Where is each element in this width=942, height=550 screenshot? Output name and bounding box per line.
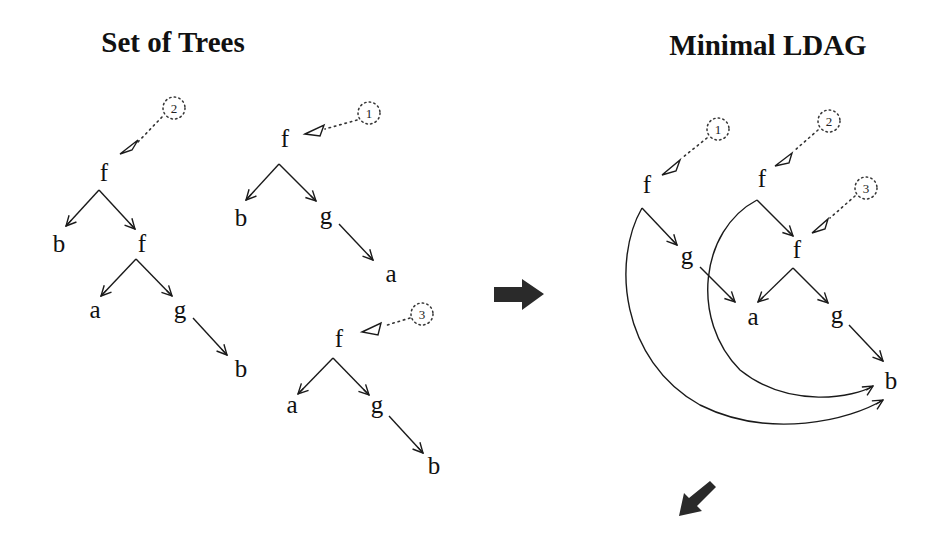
tree-node: g — [371, 391, 384, 418]
ldag-node: f — [758, 165, 767, 192]
open-arrowhead-icon — [305, 125, 324, 136]
ldag-node: f — [793, 236, 802, 263]
open-arrowhead-icon — [362, 323, 381, 335]
root-pointer-dotted — [137, 117, 162, 143]
ldag-edge — [642, 208, 677, 245]
tree-node: f — [281, 125, 290, 152]
tree-node: b — [53, 230, 66, 257]
open-arrowhead-icon — [775, 153, 792, 166]
root-pointer-dotted — [682, 138, 707, 158]
open-arrowhead-icon — [120, 140, 138, 154]
open-arrowhead-icon — [812, 219, 828, 233]
tree-node: g — [174, 296, 187, 323]
ldag-node: a — [747, 303, 758, 330]
ldag-node: g — [831, 301, 844, 328]
minimal-ldag: 1 2 3 f f g f a g b — [626, 110, 897, 424]
ldag-edge — [757, 200, 793, 236]
ldag-edge — [849, 325, 883, 361]
ldag-node: b — [885, 367, 898, 394]
tree-node: a — [385, 260, 396, 287]
tree-2: 2 f b f a g b — [53, 97, 248, 382]
right-title: Minimal LDAG — [669, 29, 866, 61]
tree-edge — [333, 358, 369, 395]
root-pointer-dotted — [325, 120, 357, 129]
root-marker-label: 2 — [171, 101, 178, 116]
tree-edge — [298, 358, 333, 394]
root-marker-label: 1 — [715, 122, 722, 137]
diagram-canvas: Set of Trees Minimal LDAG 2 f b f a g b … — [0, 0, 942, 550]
tree-edge — [193, 318, 227, 355]
tree-node: f — [100, 159, 109, 186]
ldag-node: f — [643, 171, 652, 198]
ldag-edge — [758, 268, 793, 302]
left-title: Set of Trees — [101, 26, 244, 58]
tree-edge — [339, 224, 373, 260]
tree-node: b — [235, 204, 248, 231]
ldag-node: g — [681, 242, 694, 269]
tree-edge — [136, 259, 172, 296]
tree-node: f — [335, 325, 344, 352]
tree-edge — [279, 164, 316, 201]
tree-node: b — [235, 355, 248, 382]
tree-edge — [246, 164, 279, 200]
root-marker-label: 3 — [419, 307, 426, 322]
tree-edge — [99, 190, 135, 229]
ldag-edge — [793, 268, 828, 303]
tree-node: g — [320, 202, 333, 229]
down-left-arrow-icon — [679, 481, 716, 516]
tree-edge — [101, 259, 136, 296]
tree-node: a — [89, 296, 100, 323]
ldag-edge — [700, 267, 735, 302]
tree-node: f — [138, 230, 147, 257]
open-arrowhead-icon — [662, 160, 680, 175]
tree-1: 1 f b g a — [235, 102, 397, 287]
root-marker-label: 1 — [366, 106, 373, 121]
root-pointer-dotted — [384, 318, 410, 326]
tree-3: 3 f a g b — [286, 303, 440, 479]
root-marker-label: 3 — [863, 181, 870, 196]
root-pointer-dotted — [794, 130, 818, 151]
tree-node: a — [286, 391, 297, 418]
diagram-svg: Set of Trees Minimal LDAG 2 f b f a g b … — [0, 0, 942, 550]
root-marker-label: 2 — [826, 114, 833, 129]
tree-edge — [66, 190, 99, 226]
right-arrow-icon — [494, 279, 544, 310]
root-pointer-dotted — [830, 196, 855, 218]
tree-edge — [389, 416, 423, 453]
tree-node: b — [428, 452, 441, 479]
